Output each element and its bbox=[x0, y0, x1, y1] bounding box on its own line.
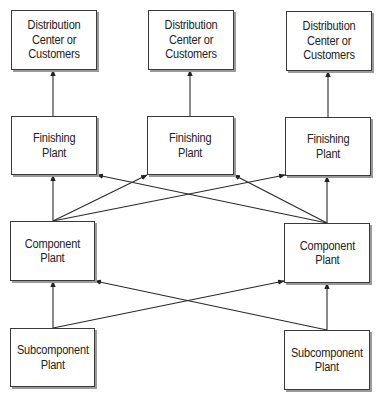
arrow-cp1-to-fp2 bbox=[53, 175, 147, 221]
arrow-sp2-to-cp1 bbox=[95, 281, 327, 330]
arrow-cp2-to-fp1 bbox=[97, 175, 327, 223]
node-label: Subcomponent Plant bbox=[17, 343, 89, 372]
node-label: Finishing Plant bbox=[169, 131, 211, 160]
node-cp1: Component Plant bbox=[10, 221, 95, 281]
node-label: Subcomponent Plant bbox=[291, 346, 363, 375]
arrow-cp2-to-fp2 bbox=[234, 175, 327, 223]
node-dc1: Distribution Center or Customers bbox=[11, 10, 97, 70]
node-dc2: Distribution Center or Customers bbox=[148, 10, 234, 70]
node-sp1: Subcomponent Plant bbox=[10, 328, 95, 387]
node-label: Distribution Center or Customers bbox=[303, 19, 356, 63]
arrow-cp1-to-fp3 bbox=[53, 175, 285, 221]
node-cp2: Component Plant bbox=[284, 223, 370, 283]
node-label: Distribution Center or Customers bbox=[28, 18, 81, 62]
node-label: Finishing Plant bbox=[33, 131, 75, 160]
node-label: Distribution Center or Customers bbox=[165, 18, 218, 62]
node-dc3: Distribution Center or Customers bbox=[286, 11, 372, 71]
node-fp3: Finishing Plant bbox=[285, 117, 371, 176]
node-label: Finishing Plant bbox=[307, 132, 349, 161]
arrow-sp1-to-cp2 bbox=[53, 281, 284, 328]
node-label: Component Plant bbox=[25, 237, 80, 266]
node-sp2: Subcomponent Plant bbox=[284, 330, 370, 390]
node-fp1: Finishing Plant bbox=[11, 116, 97, 175]
node-fp2: Finishing Plant bbox=[147, 116, 234, 175]
node-label: Component Plant bbox=[299, 239, 354, 268]
